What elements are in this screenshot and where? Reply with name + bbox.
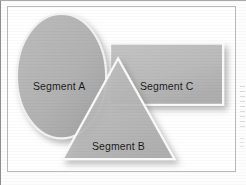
scanned-page: Segment A Segment C Segment B — [0, 0, 246, 185]
segment-c-label: Segment C — [140, 80, 193, 92]
scan-top-edge-rule — [0, 0, 246, 1]
segment-b-label: Segment B — [92, 140, 145, 152]
scan-text-bleed-artifact-secondary — [240, 138, 244, 150]
figure-frame: Segment A Segment C Segment B — [7, 6, 236, 172]
scan-text-bleed-artifact — [240, 86, 245, 130]
segment-a-label: Segment A — [33, 80, 85, 92]
scan-left-edge-rule — [0, 0, 1, 185]
